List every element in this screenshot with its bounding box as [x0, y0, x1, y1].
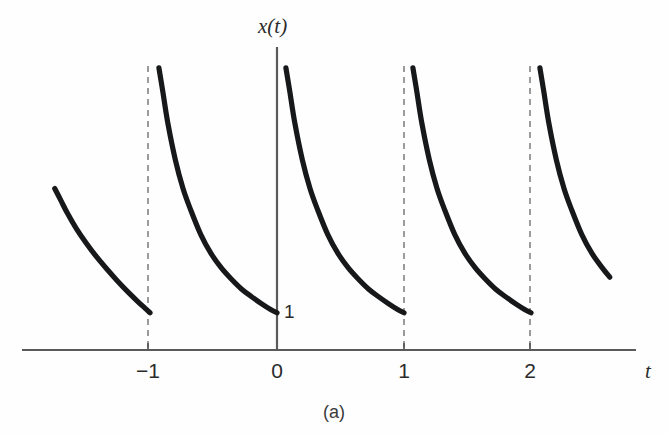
x-tick-label-2: 2: [524, 359, 536, 382]
curve-segment-partial-period-right: [540, 68, 610, 277]
y-value-label-1: 1: [284, 301, 295, 322]
x-axis-label: t: [645, 359, 652, 383]
waveform-series: [55, 68, 610, 313]
figure-container: x(t) t −1 0 1 2 1 (a): [0, 0, 668, 434]
curve-segment-period--1-to-0: [159, 68, 277, 313]
figure-caption: (a): [0, 402, 668, 423]
x-tick-label-1: 1: [398, 359, 410, 382]
x-tick-label-0: 0: [271, 359, 283, 382]
y-axis-label: x(t): [257, 14, 287, 38]
curve-segment-period-1-to-2: [413, 68, 531, 313]
signal-plot: x(t) t −1 0 1 2 1: [0, 0, 668, 434]
x-tick-label-minus-1: −1: [136, 359, 160, 382]
curve-segment-period-0-to-1: [286, 68, 404, 313]
asymptote-group: [148, 66, 530, 350]
curve-segment-partial-period-left: [55, 188, 150, 312]
